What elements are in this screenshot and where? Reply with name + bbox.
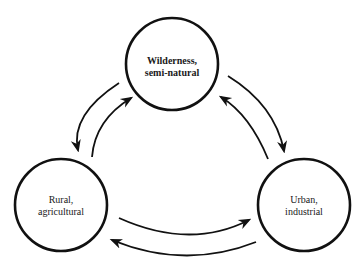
arrow-urban-to-rural xyxy=(112,240,256,256)
node-wilderness-line2: semi-natural xyxy=(126,67,218,79)
node-rural-line2: agricultural xyxy=(15,206,107,218)
arrow-rural-to-urban xyxy=(119,218,249,235)
node-urban-line1: Urban, xyxy=(258,194,350,206)
node-wilderness-label: Wilderness, semi-natural xyxy=(126,55,218,79)
node-rural-line1: Rural, xyxy=(15,194,107,206)
arrow-urban-to-wilderness xyxy=(221,97,268,159)
cycle-diagram xyxy=(0,0,362,267)
node-wilderness-line1: Wilderness, xyxy=(126,55,218,67)
arrow-wilderness-to-urban xyxy=(228,76,284,151)
arrow-rural-to-wilderness xyxy=(92,98,131,157)
node-rural-label: Rural, agricultural xyxy=(15,194,107,218)
arrow-wilderness-to-rural xyxy=(77,83,119,150)
node-urban-label: Urban, industrial xyxy=(258,194,350,218)
node-urban-line2: industrial xyxy=(258,206,350,218)
